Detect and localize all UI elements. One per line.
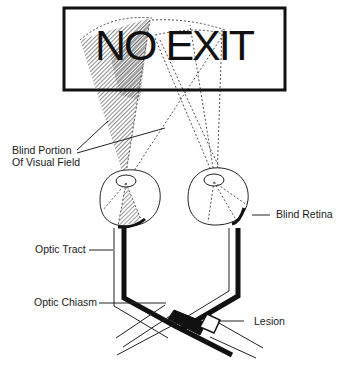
left-eye xyxy=(100,170,160,227)
label-optic-chiasm: Optic Chiasm xyxy=(34,296,97,309)
label-blind-retina: Blind Retina xyxy=(276,208,333,221)
right-eye xyxy=(188,168,248,225)
label-blind-portion-line2: Of Visual Field xyxy=(12,156,80,169)
optic-tracts xyxy=(114,228,263,358)
leader-lines xyxy=(77,121,270,321)
label-lesion: Lesion xyxy=(254,315,285,328)
label-optic-tract: Optic Tract xyxy=(35,243,86,256)
no-exit-sign-text: NO EXIT xyxy=(66,18,282,72)
